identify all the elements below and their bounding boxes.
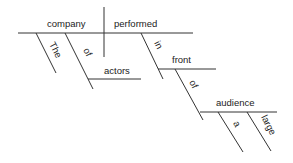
word-the: The: [47, 40, 64, 60]
word-in: in: [152, 39, 165, 51]
modifier-line-a: [218, 112, 243, 152]
prep-line-of-1: [65, 33, 93, 89]
word-of-1: of: [81, 46, 95, 58]
word-actors: actors: [104, 65, 130, 76]
word-a: a: [231, 119, 244, 129]
sentence-diagram: company performed The of actors in front…: [0, 0, 293, 163]
prep-line-of-2: [175, 69, 203, 120]
word-of-2: of: [187, 78, 201, 90]
word-audience: audience: [216, 97, 255, 108]
word-front: front: [172, 54, 191, 65]
word-large: large: [259, 113, 278, 137]
word-verb: performed: [114, 18, 157, 29]
word-subject: company: [47, 18, 86, 29]
